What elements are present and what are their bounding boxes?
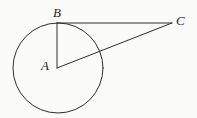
geometry-canvas	[0, 0, 197, 118]
point-label-c: C	[176, 14, 185, 27]
segment-ac-hypotenuse	[57, 23, 172, 68]
point-label-a: A	[41, 59, 49, 72]
point-label-b: B	[53, 6, 61, 19]
geometry-figure: A B C	[0, 0, 197, 118]
